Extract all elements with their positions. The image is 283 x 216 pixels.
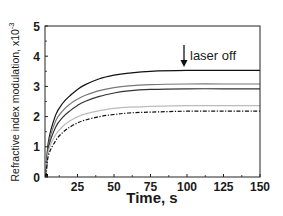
y-tick-label: 4 bbox=[33, 50, 40, 64]
y-axis: 012345 bbox=[33, 20, 48, 185]
laser-off-annotation: laser off bbox=[181, 45, 237, 67]
x-tick-label: 100 bbox=[177, 180, 197, 194]
chart: 255075100125150 012345 Time, s Refractiv… bbox=[0, 0, 283, 216]
y-tick-label: 5 bbox=[33, 20, 40, 34]
laser-off-label: laser off bbox=[190, 48, 236, 63]
y-axis-title: Refractive index modulation, x10-3 bbox=[7, 22, 21, 181]
x-axis-title: Time, s bbox=[126, 189, 177, 206]
y-tick-label: 3 bbox=[33, 80, 40, 94]
arrow-head-icon bbox=[181, 60, 188, 67]
y-axis-title-exponent: -3 bbox=[7, 22, 16, 29]
x-tick-label: 125 bbox=[213, 180, 233, 194]
x-tick-label: 150 bbox=[250, 180, 270, 194]
series-line-4 bbox=[46, 106, 260, 177]
x-tick-label: 50 bbox=[107, 180, 121, 194]
x-tick-label: 25 bbox=[71, 180, 85, 194]
series-line-1 bbox=[46, 70, 260, 177]
y-axis-title-text: Refractive index modulation, x10 bbox=[9, 29, 21, 181]
series-line-2 bbox=[46, 84, 260, 177]
series-line-5 bbox=[46, 111, 260, 177]
plot-series bbox=[45, 70, 260, 177]
y-tick-label: 1 bbox=[33, 140, 40, 154]
y-tick-label: 0 bbox=[33, 171, 40, 185]
y-tick-label: 2 bbox=[33, 110, 40, 124]
series-line-3 bbox=[46, 89, 260, 177]
